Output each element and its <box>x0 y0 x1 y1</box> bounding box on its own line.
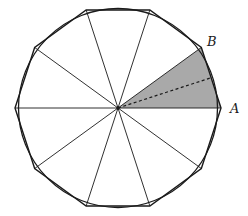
radius-line <box>118 108 150 206</box>
label-a: A <box>229 101 239 116</box>
radius-line <box>35 47 118 108</box>
decagon-diagram: A B <box>0 0 248 216</box>
radius-line <box>86 108 118 206</box>
shaded-triangle-oab <box>118 47 221 108</box>
radius-line <box>118 108 201 169</box>
label-b: B <box>206 34 217 49</box>
radius-line <box>35 108 118 169</box>
center-point <box>116 106 120 110</box>
radius-line <box>86 10 118 108</box>
